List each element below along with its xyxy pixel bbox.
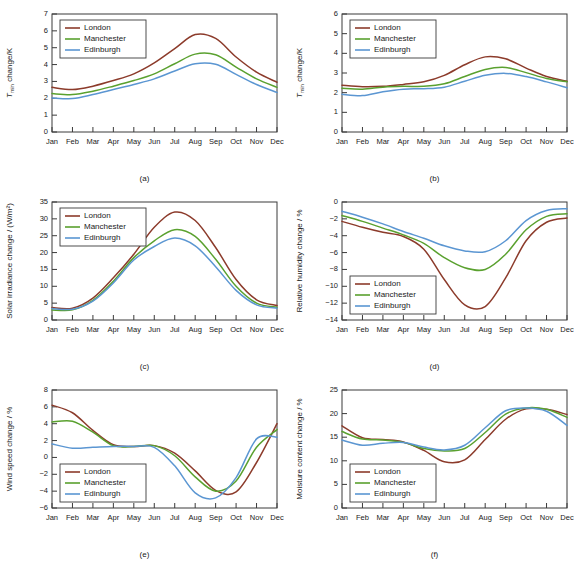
legend-label-edinburgh: Edinburgh xyxy=(84,489,120,498)
x-tick-label: Jun xyxy=(148,513,160,522)
x-tick-label: Oct xyxy=(230,137,243,146)
y-axis-label: Relative humidity change / % xyxy=(295,209,304,312)
y-tick-label: 15 xyxy=(330,432,338,441)
x-tick-label: Dec xyxy=(560,513,574,522)
x-tick-label: Jan xyxy=(336,325,348,334)
x-tick-label: Jul xyxy=(460,325,470,334)
x-tick-label: Mar xyxy=(86,325,99,334)
x-tick-label: May xyxy=(417,325,431,334)
x-tick-label: Jun xyxy=(148,137,160,146)
x-tick-label: Apr xyxy=(108,137,120,146)
x-tick-label: Oct xyxy=(520,513,533,522)
x-tick-label: Jul xyxy=(170,513,180,522)
y-tick-label: 25 xyxy=(40,231,48,240)
y-tick-label: 6 xyxy=(44,402,48,411)
subplot-a: 01234567JanFebMarAprMayJunJulAugSepOctNo… xyxy=(0,2,289,188)
x-tick-label: Feb xyxy=(66,137,79,146)
y-tick-label: 0 xyxy=(44,127,48,136)
subplot-d: −14−12−10−8−6−4−20JanFebMarAprMayJunJulA… xyxy=(290,190,579,376)
y-tick-label: 6 xyxy=(44,26,48,35)
x-tick-label: Aug xyxy=(189,137,202,146)
y-tick-label: 35 xyxy=(40,197,48,206)
x-tick-label: Apr xyxy=(108,513,120,522)
x-tick-label: Dec xyxy=(270,513,284,522)
x-tick-label: Aug xyxy=(479,325,492,334)
x-tick-label: May xyxy=(417,137,431,146)
x-tick-label: Dec xyxy=(560,325,574,334)
x-tick-label: May xyxy=(127,513,141,522)
x-tick-label: Jun xyxy=(148,325,160,334)
x-tick-label: Nov xyxy=(250,137,264,146)
y-tick-label: −4 xyxy=(329,231,338,240)
subplot-f: 0510152025JanFebMarAprMayJunJulAugSepOct… xyxy=(290,378,579,564)
x-tick-label: May xyxy=(127,137,141,146)
x-tick-label: Jan xyxy=(336,513,348,522)
x-tick-label: Nov xyxy=(540,513,554,522)
x-tick-label: Sep xyxy=(499,513,512,522)
y-tick-label: −2 xyxy=(329,214,338,223)
x-tick-label: Oct xyxy=(230,325,243,334)
subplot-e: −6−4−202468JanFebMarAprMayJunJulAugSepOc… xyxy=(0,378,289,564)
x-tick-label: Jan xyxy=(46,325,58,334)
legend-label-manchester: Manchester xyxy=(84,34,126,43)
y-tick-label: 3 xyxy=(44,76,48,85)
legend-label-london: London xyxy=(374,467,401,476)
subplot-caption-f: (f) xyxy=(290,550,579,559)
y-tick-label: 2 xyxy=(334,88,338,97)
x-tick-label: Nov xyxy=(250,325,264,334)
legend: LondonManchesterEdinburgh xyxy=(350,276,436,314)
legend: LondonManchesterEdinburgh xyxy=(350,464,436,502)
legend-label-manchester: Manchester xyxy=(374,34,416,43)
x-tick-label: Aug xyxy=(479,513,492,522)
y-tick-label: 0 xyxy=(44,315,48,324)
y-tick-label: 25 xyxy=(330,385,338,394)
y-tick-label: 1 xyxy=(44,110,48,119)
y-axis-label: Tmin change/K xyxy=(5,47,15,98)
legend-label-london: London xyxy=(374,23,401,32)
x-tick-label: Nov xyxy=(540,137,554,146)
x-tick-label: Feb xyxy=(356,513,369,522)
x-tick-label: Aug xyxy=(189,325,202,334)
y-tick-label: −2 xyxy=(39,469,48,478)
x-tick-label: Jul xyxy=(170,325,180,334)
x-tick-label: Sep xyxy=(209,513,222,522)
y-tick-label: 30 xyxy=(40,214,48,223)
x-tick-label: Jul xyxy=(460,137,470,146)
legend-label-london: London xyxy=(84,23,111,32)
x-tick-label: Sep xyxy=(499,137,512,146)
x-tick-label: Sep xyxy=(499,325,512,334)
y-tick-label: −6 xyxy=(39,503,48,512)
x-tick-label: Aug xyxy=(479,137,492,146)
x-tick-label: Jan xyxy=(46,137,58,146)
y-tick-label: −8 xyxy=(329,264,338,273)
x-tick-label: Apr xyxy=(398,513,410,522)
subplot-caption-c: (c) xyxy=(0,362,289,371)
x-tick-label: Mar xyxy=(376,325,389,334)
x-tick-label: Jan xyxy=(336,137,348,146)
y-tick-label: 3 xyxy=(334,68,338,77)
legend-label-manchester: Manchester xyxy=(374,478,416,487)
x-tick-label: Sep xyxy=(209,325,222,334)
x-tick-label: Oct xyxy=(520,137,533,146)
x-tick-label: Jun xyxy=(438,137,450,146)
y-tick-label: 5 xyxy=(334,29,338,38)
y-tick-label: 8 xyxy=(44,385,48,394)
y-tick-label: −10 xyxy=(325,281,338,290)
x-tick-label: May xyxy=(417,513,431,522)
legend-label-edinburgh: Edinburgh xyxy=(374,489,410,498)
x-tick-label: Mar xyxy=(86,137,99,146)
x-tick-label: Sep xyxy=(209,137,222,146)
y-tick-label: 4 xyxy=(44,60,48,69)
y-tick-label: 2 xyxy=(44,93,48,102)
y-tick-label: 6 xyxy=(334,9,338,18)
y-tick-label: 0 xyxy=(44,452,48,461)
legend-label-manchester: Manchester xyxy=(84,478,126,487)
legend-label-edinburgh: Edinburgh xyxy=(84,233,120,242)
y-tick-label: 10 xyxy=(330,456,338,465)
subplot-b: 0123456JanFebMarAprMayJunJulAugSepOctNov… xyxy=(290,2,579,188)
y-tick-label: 4 xyxy=(44,419,48,428)
y-tick-label: 5 xyxy=(334,479,338,488)
y-tick-label: 0 xyxy=(334,197,338,206)
legend: LondonManchesterEdinburgh xyxy=(60,208,146,246)
x-tick-label: Jan xyxy=(46,513,58,522)
